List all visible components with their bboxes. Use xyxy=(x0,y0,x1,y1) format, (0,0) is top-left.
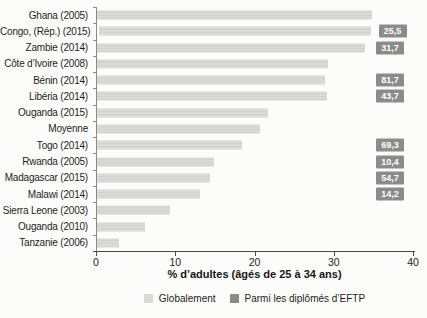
y-tick xyxy=(93,235,97,236)
bar-globalement xyxy=(96,238,119,247)
chart-row: Congo, (Rép.) (2015)25,5 xyxy=(0,23,427,39)
y-tick xyxy=(93,153,97,154)
bar-globalement xyxy=(96,190,200,199)
y-tick xyxy=(93,7,97,8)
chart-row: Malawi (2014)14,2 xyxy=(0,186,427,202)
chart-row: Madagascar (2015)54,7 xyxy=(0,170,427,186)
bar-track xyxy=(96,235,413,251)
y-axis-line xyxy=(96,7,97,251)
y-tick xyxy=(93,88,97,89)
legend-swatch-light-icon xyxy=(144,294,153,303)
chart-row: Zambie (2014)31,7 xyxy=(0,40,427,56)
y-tick xyxy=(93,137,97,138)
chart-row: Sierra Leone (2003) xyxy=(0,202,427,218)
value-badge-eftp: 25,5 xyxy=(379,25,407,38)
legend-label: Parmi les diplômés d’EFTP xyxy=(245,293,366,304)
bar-globalement xyxy=(96,124,260,133)
legend-label: Globalement xyxy=(159,293,216,304)
bar-track xyxy=(96,56,413,72)
value-badge-eftp: 81,7 xyxy=(376,74,404,87)
bar-globalement xyxy=(96,141,242,150)
x-tick-label: 20 xyxy=(240,256,270,268)
value-badge-eftp: 31,7 xyxy=(376,41,404,54)
bar-globalement xyxy=(99,27,372,36)
y-tick xyxy=(93,105,97,106)
chart-row: Ouganda (2010) xyxy=(0,218,427,234)
x-axis-title: % d’adultes (âgés de 25 à 34 ans) xyxy=(96,268,413,280)
chart-row: Ghana (2005) xyxy=(0,7,427,23)
x-tick-label: 30 xyxy=(319,256,349,268)
category-label: Côte d’Ivoire (2008) xyxy=(0,58,88,69)
bar-globalement xyxy=(96,59,328,68)
legend-swatch-dark-icon xyxy=(230,294,239,303)
x-tick-label: 0 xyxy=(81,256,111,268)
value-badge-eftp: 10,4 xyxy=(376,155,404,168)
category-label: Rwanda (2005) xyxy=(0,156,88,167)
bar-globalement xyxy=(96,206,170,215)
category-label: Malawi (2014) xyxy=(0,189,88,200)
category-label: Zambie (2014) xyxy=(0,42,88,53)
chart-row: Moyenne xyxy=(0,121,427,137)
value-badge-eftp: 43,7 xyxy=(376,90,404,103)
y-tick xyxy=(93,186,97,187)
category-label: Congo, (Rép.) (2015) xyxy=(0,26,91,37)
x-tick-label: 40 xyxy=(398,256,427,268)
category-label: Ouganda (2010) xyxy=(0,221,88,232)
bar-track xyxy=(96,218,413,234)
bar-globalement xyxy=(96,11,372,20)
bar-track: 54,7 xyxy=(96,170,413,186)
bar-track: 14,2 xyxy=(96,186,413,202)
category-label: Tanzanie (2006) xyxy=(0,237,88,248)
chart-row: Rwanda (2005)10,4 xyxy=(0,153,427,169)
category-label: Ghana (2005) xyxy=(0,10,88,21)
y-tick xyxy=(93,202,97,203)
chart-row: Ouganda (2015) xyxy=(0,105,427,121)
bar-track: 10,4 xyxy=(96,153,413,169)
y-tick xyxy=(93,23,97,24)
bar-globalement xyxy=(96,76,325,85)
category-label: Bénin (2014) xyxy=(0,75,88,86)
bar-track xyxy=(96,202,413,218)
y-tick xyxy=(93,218,97,219)
bar-globalement xyxy=(96,173,210,182)
value-badge-eftp: 69,3 xyxy=(376,139,404,152)
bar-globalement xyxy=(96,92,327,101)
y-tick xyxy=(93,72,97,73)
bar-globalement xyxy=(96,157,214,166)
legend-item-eftp: Parmi les diplômés d’EFTP xyxy=(230,293,366,304)
y-tick xyxy=(93,170,97,171)
value-badge-eftp: 54,7 xyxy=(376,171,404,184)
value-badge-eftp: 14,2 xyxy=(376,188,404,201)
category-label: Moyenne xyxy=(0,123,88,134)
bar-globalement xyxy=(96,108,268,117)
bar-track xyxy=(96,7,413,23)
x-tick-label: 10 xyxy=(160,256,190,268)
y-tick xyxy=(93,40,97,41)
bar-track xyxy=(96,105,413,121)
chart-row: Bénin (2014)81,7 xyxy=(0,72,427,88)
bar-chart-figure: Ghana (2005)Congo, (Rép.) (2015)25,5Zamb… xyxy=(0,0,427,318)
bar-track xyxy=(96,121,413,137)
chart-row: Tanzanie (2006) xyxy=(0,235,427,251)
y-tick xyxy=(93,121,97,122)
chart-row: Côte d’Ivoire (2008) xyxy=(0,56,427,72)
legend-item-globalement: Globalement xyxy=(144,293,216,304)
category-label: Sierra Leone (2003) xyxy=(0,205,88,216)
bar-track: 81,7 xyxy=(96,72,413,88)
bar-track: 43,7 xyxy=(96,88,413,104)
chart-row: Libéria (2014)43,7 xyxy=(0,88,427,104)
category-label: Ouganda (2015) xyxy=(0,107,88,118)
category-label: Madagascar (2015) xyxy=(0,172,88,183)
chart-legend: Globalement Parmi les diplômés d’EFTP xyxy=(96,293,413,304)
chart-rows: Ghana (2005)Congo, (Rép.) (2015)25,5Zamb… xyxy=(0,7,427,251)
bar-track: 69,3 xyxy=(96,137,413,153)
bar-globalement xyxy=(96,43,365,52)
chart-row: Togo (2014)69,3 xyxy=(0,137,427,153)
y-tick xyxy=(93,56,97,57)
bar-track: 31,7 xyxy=(96,40,413,56)
category-label: Togo (2014) xyxy=(0,140,88,151)
category-label: Libéria (2014) xyxy=(0,91,88,102)
bar-track: 25,5 xyxy=(99,23,416,39)
bar-globalement xyxy=(96,222,145,231)
